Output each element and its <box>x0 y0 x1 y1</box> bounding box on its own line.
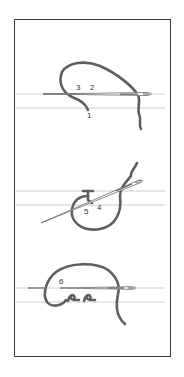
label-6: 6 <box>59 277 64 286</box>
label-4: 4 <box>97 203 102 212</box>
needle <box>43 92 152 95</box>
label-3: 3 <box>76 83 81 92</box>
label-2: 2 <box>90 83 95 92</box>
french-knot-2 <box>84 295 95 301</box>
french-knot-1 <box>68 295 79 301</box>
needle <box>41 180 143 223</box>
thread-loop <box>60 63 141 129</box>
panel-step-2: 5 4 <box>16 163 165 230</box>
stitch-diagram: 3 2 1 5 4 6 <box>0 0 184 377</box>
label-5: 5 <box>84 207 89 216</box>
panel-step-1: 3 2 1 <box>16 63 165 129</box>
label-1: 1 <box>87 111 92 120</box>
panel-step-3: 6 <box>16 264 165 324</box>
thread-loop <box>45 264 125 324</box>
